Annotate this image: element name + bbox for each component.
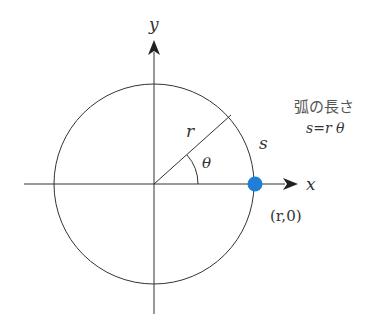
point-r-0: [248, 177, 263, 192]
arc-length-diagram: y x r θ s (r,0) 弧の長さ s=r θ: [0, 0, 381, 329]
radius-label: r: [186, 121, 195, 141]
angle-arc: [187, 155, 198, 184]
arc-label: s: [259, 133, 268, 153]
caption-title: 弧の長さ: [294, 98, 354, 116]
y-axis-label: y: [148, 14, 159, 34]
diagram-canvas: y x r θ s (r,0) 弧の長さ s=r θ: [0, 0, 381, 329]
point-label: (r,0): [270, 207, 302, 225]
angle-label: θ: [202, 154, 211, 172]
caption-formula: s=r θ: [306, 120, 345, 136]
x-axis-arrow-icon: [283, 178, 298, 190]
x-axis-label: x: [306, 174, 316, 194]
